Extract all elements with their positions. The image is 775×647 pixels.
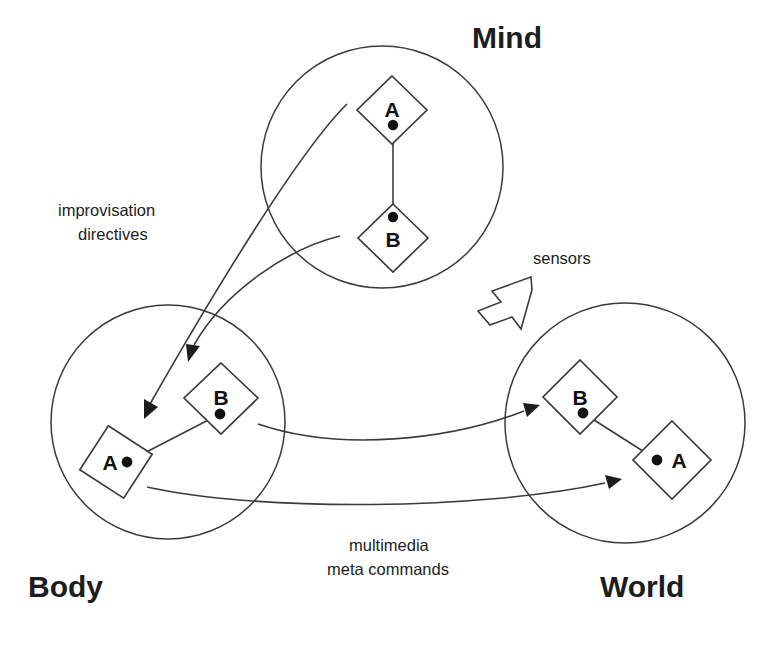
body-a-letter: A [102, 451, 117, 474]
world-b-dot [578, 408, 589, 419]
improvisation-label-line2: directives [78, 225, 148, 243]
mind-body-world-diagram: A B Mind B [0, 0, 775, 647]
sensors-group: sensors [478, 249, 591, 329]
region-world: B A World [505, 303, 745, 603]
diagram-canvas: A B Mind B [0, 0, 775, 647]
sensors-block-arrow-icon [478, 277, 532, 329]
mind-b-letter: B [385, 228, 400, 251]
mind-b-dot [388, 212, 398, 222]
arrow-body-a-to-world-a-head [605, 475, 622, 489]
body-a-dot [122, 457, 133, 468]
flow-mind-to-body [144, 104, 347, 419]
mind-a-dot [388, 120, 398, 130]
world-b-letter: B [572, 386, 587, 409]
body-title: Body [28, 570, 103, 603]
world-title: World [600, 570, 684, 603]
sensors-label: sensors [533, 249, 591, 267]
body-b-dot [215, 409, 226, 420]
node-world-b: B [543, 360, 617, 434]
world-a-letter: A [671, 449, 686, 472]
arrow-mind-b-to-body-b-head [186, 344, 200, 362]
body-circle [51, 305, 285, 539]
node-mind-b: B [358, 204, 428, 272]
arrow-body-b-to-world-b [258, 411, 524, 440]
arrow-mind-a-to-body-a [150, 104, 347, 404]
world-a-dot [652, 455, 663, 466]
node-mind-a: A [357, 76, 427, 144]
world-circle [505, 303, 745, 543]
arrow-body-b-to-world-b-head [523, 403, 540, 417]
node-body-b: B [184, 363, 258, 434]
multimedia-label-line1: multimedia [349, 536, 430, 554]
region-mind: A B Mind [261, 21, 542, 288]
mind-title: Mind [472, 21, 542, 54]
region-body: B A Body [28, 305, 285, 603]
multimedia-label-line2: meta commands [327, 560, 449, 578]
node-world-a: A [633, 421, 711, 499]
improvisation-label-line1: improvisation [58, 201, 155, 219]
body-b-letter: B [213, 386, 228, 409]
arrow-body-a-to-world-a [147, 483, 605, 505]
mind-a-letter: A [384, 98, 399, 121]
